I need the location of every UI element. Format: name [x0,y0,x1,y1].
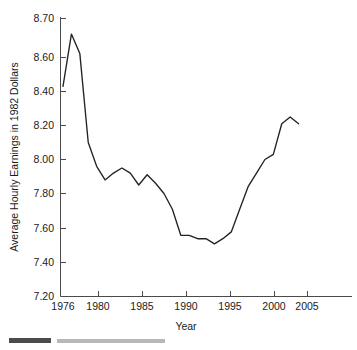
y-tick-label: 8.40 [34,85,55,97]
x-tick-label: 2005 [295,300,319,312]
y-tick-label: 8.60 [34,51,55,63]
y-tick-label: 8.70 [34,12,55,24]
x-tick-label: 1976 [51,300,75,312]
caption-rule [9,338,51,343]
y-tick-label: 8.20 [34,119,55,131]
earnings-series-line [63,34,299,244]
x-tick-label: 1990 [174,300,198,312]
x-tick-label: 2000 [262,300,286,312]
y-axis-title: Average Hourly Earnings in 1982 Dollars [8,62,20,252]
y-tick-label: 7.60 [34,222,55,234]
caption-rule-secondary [57,339,165,343]
x-axis-title: Year [175,320,197,332]
line-chart: Average Hourly Earnings in 1982 Dollars … [0,0,357,350]
y-tick-label: 7.40 [34,256,55,268]
figure-container: Average Hourly Earnings in 1982 Dollars … [0,0,357,350]
x-tick-label: 1980 [86,300,110,312]
x-tick-label: 1985 [130,300,154,312]
y-tick-label: 8.00 [34,153,55,165]
x-tick-label: 1995 [218,300,242,312]
y-tick-label: 7.80 [34,187,55,199]
